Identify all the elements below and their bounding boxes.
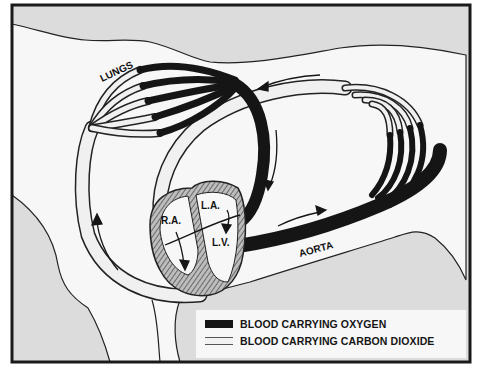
right-atrium-label: R.A. — [161, 215, 181, 226]
co2-swatch-icon — [205, 337, 233, 345]
left-atrium-label: L.A. — [201, 200, 220, 211]
legend-label-oxygen: BLOOD CARRYING OXYGEN — [240, 318, 386, 330]
left-ventricle-label: L.V. — [212, 237, 230, 248]
legend-label-co2: BLOOD CARRYING CARBON DIOXIDE — [240, 335, 434, 347]
legend-item-oxygen: BLOOD CARRYING OXYGEN — [205, 315, 467, 332]
oxygen-swatch-icon — [205, 320, 233, 328]
legend-item-co2: BLOOD CARRYING CARBON DIOXIDE — [205, 332, 467, 349]
legend: BLOOD CARRYING OXYGEN BLOOD CARRYING CAR… — [205, 315, 467, 349]
